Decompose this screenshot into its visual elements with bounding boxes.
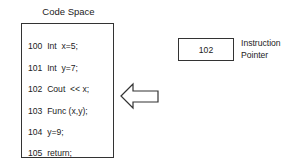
- label-line-1: Instruction: [241, 37, 281, 49]
- pointer-arrow-icon: [0, 0, 302, 167]
- instruction-pointer-box: 102: [178, 38, 234, 61]
- instruction-pointer-value: 102: [199, 45, 213, 55]
- instruction-pointer-label: Instruction Pointer: [241, 37, 281, 61]
- label-line-2: Pointer: [241, 49, 281, 61]
